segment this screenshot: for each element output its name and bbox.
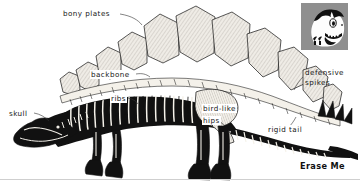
- dinosaur-head-thumbnail[interactable]: [301, 3, 348, 50]
- label-ribs: ribs: [110, 94, 127, 103]
- erase-me-text[interactable]: Erase Me: [300, 161, 345, 171]
- label-bony-plates: bony plates: [62, 9, 111, 18]
- leader-bony-plates: [120, 14, 142, 25]
- dinosaur-head-icon: [301, 3, 348, 50]
- leader-backbone: [136, 74, 150, 77]
- label-rigid-tail: rigid tail: [267, 125, 303, 134]
- diagram-page: bony plates backbone ribs skull bird-lik…: [0, 0, 360, 187]
- label-hips: hips: [202, 116, 221, 125]
- label-backbone: backbone: [90, 70, 131, 79]
- label-skull: skull: [9, 109, 28, 118]
- label-spikes: spikes: [305, 78, 330, 87]
- label-defensive: defensive: [305, 68, 344, 77]
- bottom-divider: [0, 179, 360, 180]
- label-bird-like-hips: bird-like: [202, 104, 237, 113]
